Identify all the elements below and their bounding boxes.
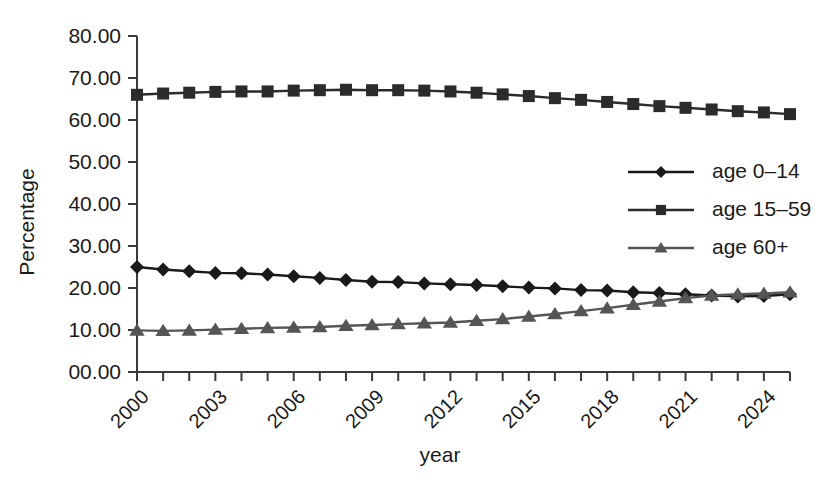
data-point: [626, 285, 640, 299]
data-point: [600, 284, 614, 298]
data-point: [235, 85, 247, 97]
data-point: [314, 84, 326, 96]
data-point: [496, 279, 510, 293]
series-2: [129, 285, 797, 336]
data-point: [497, 88, 509, 100]
x-tick-label: 2003: [184, 385, 231, 432]
x-tick-label: 2024: [733, 385, 780, 432]
x-tick-label: 2006: [263, 385, 310, 432]
x-tick-label: 2012: [419, 385, 466, 432]
x-tick-label: 2021: [654, 385, 701, 432]
series-line: [137, 292, 790, 331]
y-tick-label: 60.00: [68, 108, 121, 131]
data-point: [288, 85, 300, 97]
data-point: [208, 266, 222, 280]
data-point: [417, 276, 431, 290]
data-point: [443, 277, 457, 291]
data-point: [392, 84, 404, 96]
data-point: [183, 87, 195, 99]
x-axis-title: year: [420, 443, 461, 466]
chart-legend: age 0–14age 15–59age 60+: [628, 159, 811, 258]
data-point: [732, 105, 744, 117]
data-point: [366, 84, 378, 96]
legend-label: age 0–14: [712, 159, 800, 182]
data-point: [391, 275, 405, 289]
data-point: [548, 281, 562, 295]
data-point: [131, 89, 143, 101]
data-point: [653, 100, 665, 112]
data-point: [627, 98, 639, 110]
series-line: [137, 90, 790, 114]
x-tick-label: 2018: [576, 385, 623, 432]
data-point: [758, 106, 770, 118]
x-tick-label: 2015: [498, 385, 545, 432]
data-series: [129, 84, 797, 336]
chart-container: 00.0010.0020.0030.0040.0050.0060.0070.00…: [0, 0, 830, 483]
data-point: [209, 86, 221, 98]
data-point: [156, 263, 170, 277]
legend-marker-square-icon: [656, 205, 666, 215]
legend-label: age 60+: [712, 235, 789, 258]
x-tick-label: 2000: [106, 385, 153, 432]
data-point: [182, 264, 196, 278]
data-point: [287, 269, 301, 283]
y-tick-label: 40.00: [68, 192, 121, 215]
data-point: [262, 85, 274, 97]
data-point: [313, 271, 327, 285]
y-tick-label: 10.00: [68, 318, 121, 341]
x-tick-label: 2009: [341, 385, 388, 432]
y-tick-label: 30.00: [68, 234, 121, 257]
data-point: [339, 273, 353, 287]
x-axis-ticks: 200020032006200920122015201820212024: [106, 372, 790, 432]
data-point: [471, 87, 483, 99]
data-point: [706, 104, 718, 116]
data-point: [340, 84, 352, 96]
data-point: [157, 88, 169, 100]
data-point: [470, 278, 484, 292]
data-point: [575, 94, 587, 106]
line-chart: 00.0010.0020.0030.0040.0050.0060.0070.00…: [0, 0, 830, 483]
data-point: [234, 266, 248, 280]
y-tick-label: 20.00: [68, 276, 121, 299]
legend-label: age 15–59: [712, 197, 811, 220]
series-1: [131, 84, 796, 120]
data-point: [365, 275, 379, 289]
data-point: [523, 90, 535, 102]
y-tick-label: 80.00: [68, 24, 121, 47]
data-point: [601, 96, 613, 108]
y-tick-label: 00.00: [68, 360, 121, 383]
y-axis-ticks: 00.0010.0020.0030.0040.0050.0060.0070.00…: [68, 24, 137, 383]
data-point: [574, 283, 588, 297]
data-point: [444, 85, 456, 97]
y-tick-label: 70.00: [68, 66, 121, 89]
data-point: [261, 268, 275, 282]
y-axis-title: Percentage: [15, 168, 38, 275]
data-point: [130, 260, 144, 274]
y-tick-label: 50.00: [68, 150, 121, 173]
data-point: [418, 85, 430, 97]
series-line: [137, 267, 790, 296]
data-point: [522, 281, 536, 295]
data-point: [549, 92, 561, 104]
data-point: [784, 108, 796, 120]
data-point: [680, 102, 692, 114]
legend-marker-diamond-icon: [655, 166, 667, 178]
